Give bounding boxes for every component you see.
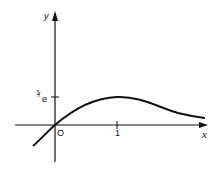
curve-x-exp-neg-x <box>33 97 205 146</box>
y-tick-label-slash: / <box>38 91 40 99</box>
origin-label: O <box>57 129 64 138</box>
x-axis-label: x <box>202 129 207 140</box>
y-tick-label-denominator: e <box>42 95 47 104</box>
chart-canvas <box>0 0 221 171</box>
y-axis-label: y <box>44 12 49 21</box>
y-axis-arrow-icon <box>52 11 58 21</box>
x-tick-label-1: 1 <box>115 129 120 138</box>
